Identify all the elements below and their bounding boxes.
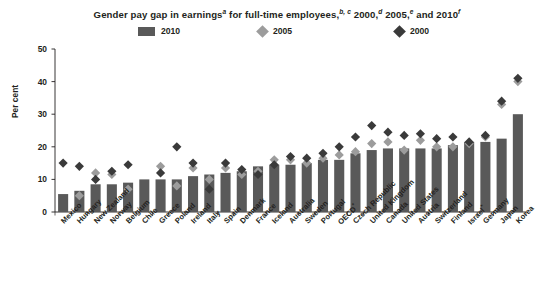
marker-2000 bbox=[91, 175, 100, 184]
marker-2000 bbox=[351, 132, 360, 141]
marker-2000 bbox=[400, 131, 409, 140]
marker-2000 bbox=[59, 159, 68, 168]
y-tick-label: 40 bbox=[25, 77, 47, 87]
y-tick-label: 20 bbox=[25, 142, 47, 152]
marker-2005 bbox=[383, 137, 392, 146]
marker-2000 bbox=[188, 159, 197, 168]
y-tick-label: 50 bbox=[25, 44, 47, 54]
marker-2000 bbox=[335, 142, 344, 151]
marker-2005 bbox=[335, 150, 344, 159]
marker-2000 bbox=[318, 149, 327, 158]
bar-2010 bbox=[156, 179, 166, 212]
marker-2000 bbox=[367, 121, 376, 130]
plot-area bbox=[0, 0, 554, 308]
bar-2010 bbox=[221, 173, 231, 212]
chart-container: Gender pay gap in earningsa for full-tim… bbox=[0, 0, 554, 308]
marker-2000 bbox=[123, 160, 132, 169]
bar-2010 bbox=[58, 194, 68, 212]
marker-2000 bbox=[481, 131, 490, 140]
marker-2000 bbox=[75, 162, 84, 171]
marker-2000 bbox=[383, 128, 392, 137]
marker-2000 bbox=[432, 134, 441, 143]
bar-2010 bbox=[480, 142, 490, 212]
marker-2000 bbox=[448, 132, 457, 141]
marker-2000 bbox=[221, 159, 230, 168]
marker-2000 bbox=[156, 168, 165, 177]
y-tick-label: 30 bbox=[25, 109, 47, 119]
bar-2010 bbox=[513, 114, 523, 212]
marker-2005 bbox=[367, 139, 376, 148]
marker-2000 bbox=[172, 142, 181, 151]
marker-2000 bbox=[416, 129, 425, 138]
y-tick-label: 10 bbox=[25, 174, 47, 184]
y-tick-label: 0 bbox=[25, 207, 47, 217]
marker-2000 bbox=[302, 154, 311, 163]
